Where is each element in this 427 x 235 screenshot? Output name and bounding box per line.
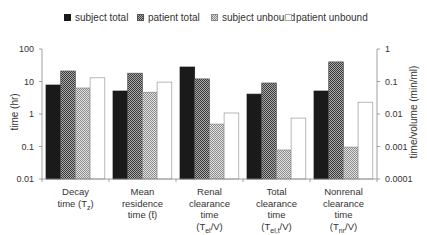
bar-patient-total	[329, 62, 344, 179]
bar-series-group	[46, 62, 373, 179]
bar-patient-total	[195, 79, 210, 179]
bar-patient-unbound	[90, 78, 105, 179]
bar-patient-unbound	[157, 82, 172, 179]
bar-subject-total	[180, 67, 195, 179]
bar-subject-unbound	[276, 150, 291, 179]
x-category-label: Renalclearancetime(Tel/V)	[177, 186, 243, 235]
bar-patient-total	[61, 71, 76, 179]
bar-subject-unbound	[209, 124, 224, 179]
bar-subject-total	[46, 85, 61, 179]
bar-patient-unbound	[358, 102, 373, 179]
x-category-label: Nonrenalclearancetime(Tnr/V)	[311, 186, 377, 235]
bar-subject-total	[247, 94, 262, 179]
x-category-label: Meanresidencetime (t̄)	[110, 186, 176, 221]
x-category-label: Decaytime (Tz)	[43, 186, 109, 213]
bar-subject-unbound	[343, 147, 358, 179]
bar-subject-unbound	[142, 92, 157, 179]
bar-patient-unbound	[224, 113, 239, 179]
bar-subject-total	[314, 91, 329, 179]
x-category-label: Totalclearancetime(Tel,t/V)	[244, 186, 310, 235]
bar-subject-unbound	[75, 88, 90, 179]
bar-patient-total	[128, 73, 143, 179]
bar-patient-total	[262, 83, 277, 179]
bar-patient-unbound	[291, 118, 306, 179]
bar-subject-total	[113, 91, 128, 179]
